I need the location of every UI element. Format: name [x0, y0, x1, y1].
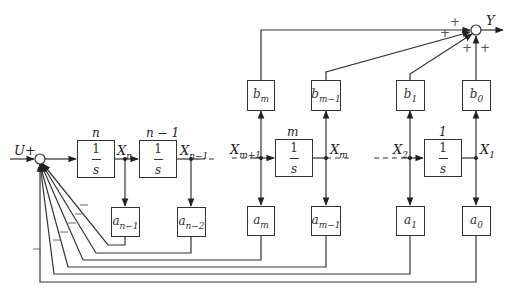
integrator-n-1: 1s	[139, 140, 177, 178]
state-xm-label: Xm	[330, 143, 348, 160]
left-summing-junction	[35, 154, 45, 164]
plus-sign-bm: +	[450, 16, 460, 28]
gain-b-m: bm	[247, 80, 275, 111]
denominator: s	[291, 162, 297, 176]
state-xn-label: Xn	[117, 144, 132, 161]
state-xm+1-label: Xm+1	[230, 143, 261, 160]
gain-b-m-1: bm−1	[311, 80, 341, 111]
plus-sign-bm-1: +	[440, 27, 450, 39]
gain-b-0: b0	[462, 80, 491, 111]
state-x2-label: X2	[393, 143, 408, 160]
gain-a-n-1: an−1	[111, 207, 140, 237]
integrator-index-n: n	[92, 127, 100, 139]
plus-sign-b0: +	[480, 42, 490, 54]
input-label: U+	[14, 144, 36, 157]
denominator: s	[155, 163, 161, 177]
right-summing-junction	[471, 25, 481, 35]
integrator-m: 1s	[275, 139, 313, 177]
integrator-n: 1s	[77, 140, 115, 178]
state-x1-label: X1	[480, 143, 495, 160]
state-xn-1-label: Xn−1	[180, 144, 208, 161]
input-sign: +	[25, 143, 36, 158]
integrator-index-n-1: n − 1	[146, 127, 179, 139]
integrator-index-m: m	[287, 126, 298, 138]
numerator: 1	[154, 142, 162, 156]
numerator: 1	[92, 142, 100, 156]
input-symbol: U	[14, 143, 25, 158]
gain-a-m-1: am−1	[311, 206, 341, 236]
denominator: s	[93, 163, 99, 177]
integrator-1: 1s	[424, 139, 462, 177]
integrator-index-1: 1	[439, 126, 447, 138]
numerator: 1	[290, 141, 298, 155]
denominator: s	[440, 162, 446, 176]
gain-a-m: am	[247, 206, 275, 236]
gain-a-0: a0	[462, 206, 491, 236]
numerator: 1	[439, 141, 447, 155]
output-label: Y	[486, 14, 495, 27]
gain-a-n-2: an−2	[177, 207, 206, 237]
gain-b-1: b1	[396, 80, 425, 111]
gain-a-1: a1	[396, 206, 425, 236]
plus-sign-b1: +	[462, 42, 472, 54]
